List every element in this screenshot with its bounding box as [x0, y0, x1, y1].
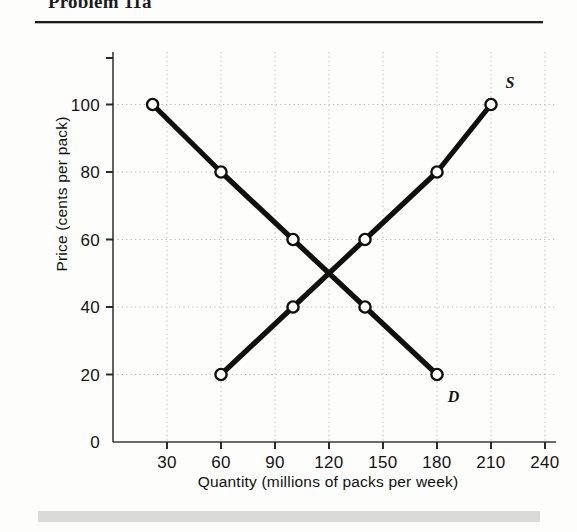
- x-tick-label-60: 60: [211, 453, 231, 472]
- y-tick-label-20: 20: [80, 366, 100, 385]
- x-tick-label-210: 210: [476, 453, 505, 472]
- y-tick-label-100: 100: [71, 96, 100, 115]
- x-tick-label-30: 30: [157, 453, 177, 472]
- data-point-S-210-100: [485, 99, 496, 110]
- chart-plot: 020406080100306090120150180210240DS Pric…: [0, 0, 577, 532]
- curve-label-D: D: [447, 388, 460, 405]
- data-point-D-60-80: [215, 166, 226, 177]
- y-tick-label-60: 60: [80, 231, 100, 250]
- data-point-S-140-60: [359, 234, 370, 245]
- y-tick-label-0: 0: [90, 433, 100, 452]
- data-point-D-22-100: [147, 99, 158, 110]
- x-tick-label-90: 90: [265, 453, 285, 472]
- data-point-D-180-20: [431, 369, 442, 380]
- x-tick-label-240: 240: [530, 453, 559, 472]
- data-point-D-100-60: [287, 234, 298, 245]
- x-axis-label: Quantity (millions of packs per week): [113, 473, 543, 491]
- x-tick-label-120: 120: [314, 453, 343, 472]
- data-point-D-140-40: [359, 301, 370, 312]
- curve-label-S: S: [505, 74, 514, 91]
- y-axis-label: Price (cents per pack): [53, 74, 71, 314]
- x-tick-label-180: 180: [422, 453, 451, 472]
- y-tick-label-40: 40: [80, 298, 100, 317]
- data-point-S-180-80: [431, 166, 442, 177]
- data-point-S-60-20: [215, 369, 226, 380]
- y-tick-label-80: 80: [80, 163, 100, 182]
- x-tick-label-150: 150: [368, 453, 397, 472]
- supply-demand-chart: 020406080100306090120150180210240DS: [0, 0, 577, 532]
- data-point-S-100-40: [287, 301, 298, 312]
- figure-root: Problem 11a 0204060801003060901201501802…: [0, 0, 577, 532]
- bottom-band: [38, 511, 540, 522]
